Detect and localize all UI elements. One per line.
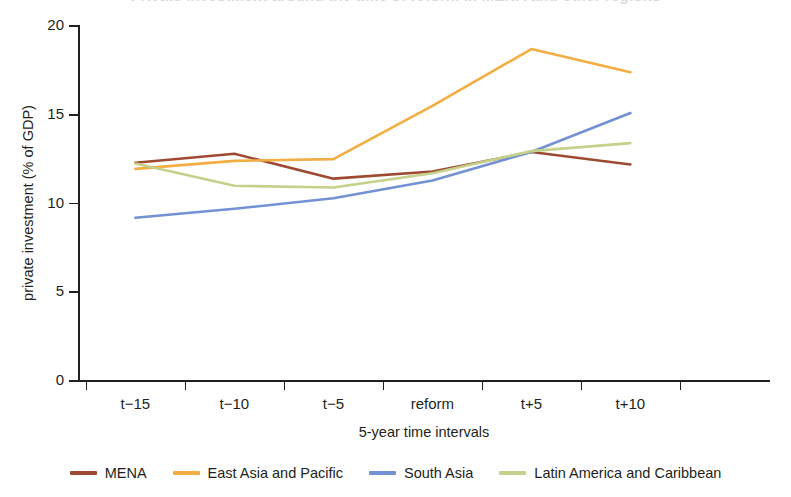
y-tick-label: 20 [4,17,64,32]
legend-item[interactable]: MENA [70,465,147,481]
y-tick-mark [69,203,78,205]
legend-label: MENA [105,465,147,481]
legend-swatch-icon [369,471,396,474]
chart-title: Private investment around the time of re… [0,0,791,4]
y-tick-label: 0 [4,372,64,387]
x-axis-title: 5-year time intervals [78,424,770,440]
legend-label: South Asia [404,465,473,481]
x-tick-mark [284,381,285,390]
legend-swatch-icon [173,471,200,474]
legend-item[interactable]: Latin America and Caribbean [499,465,721,481]
plot-area [78,26,770,381]
series-line [135,113,630,218]
legend-swatch-icon [70,471,97,474]
legend-label: East Asia and Pacific [208,465,343,481]
x-tick-mark [185,381,186,390]
y-tick-mark [69,380,78,382]
y-tick-label: 10 [4,195,64,210]
x-tick-mark [86,381,87,390]
legend-item[interactable]: South Asia [369,465,473,481]
chart-figure: Private investment around the time of re… [0,0,791,497]
series-line [135,143,630,187]
y-tick-mark [69,25,78,27]
x-tick-mark [581,381,582,390]
legend-swatch-icon [499,471,526,474]
x-tick-mark [383,381,384,390]
x-tick-mark [680,381,681,390]
y-tick-mark [69,114,78,116]
series-line [135,49,630,169]
legend-item[interactable]: East Asia and Pacific [173,465,343,481]
y-tick-label: 5 [4,283,64,298]
legend-label: Latin America and Caribbean [534,465,721,481]
y-tick-mark [69,291,78,293]
series-lines [78,26,770,381]
x-tick-label: t+10 [570,395,690,412]
chart-legend: MENAEast Asia and PacificSouth AsiaLatin… [0,465,791,481]
series-line [135,152,630,179]
x-tick-mark [482,381,483,390]
y-tick-label: 15 [4,106,64,121]
